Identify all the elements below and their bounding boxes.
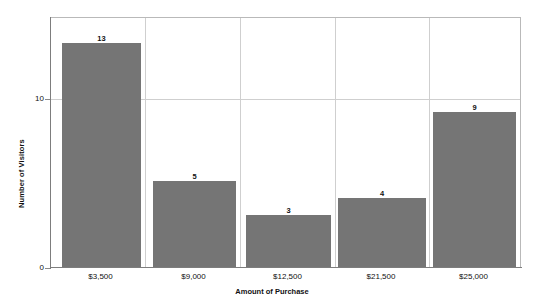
bar-1 — [62, 43, 141, 267]
y-tick-label-10: 10 — [26, 93, 44, 105]
x-tick-label-2: $9,000 — [152, 272, 235, 281]
bar-value-5: 9 — [433, 103, 516, 112]
x-axis-title: Amount of Purchase — [0, 287, 544, 296]
bar-value-4: 4 — [338, 189, 426, 198]
y-tick-label-0: 0 — [26, 262, 44, 274]
bar-2 — [153, 181, 236, 267]
plot-area: 13 5 3 4 9 — [50, 17, 521, 268]
bar-3 — [246, 215, 331, 267]
x-tick-label-3: $12,500 — [245, 272, 330, 281]
bar-value-3: 3 — [246, 206, 331, 215]
bar-chart: Number of Visitors 10 0 13 5 3 4 9 $3,50… — [0, 0, 544, 305]
x-tick-label-4: $21,500 — [337, 272, 425, 281]
bar-5 — [433, 112, 516, 267]
bar-value-2: 5 — [153, 172, 236, 181]
x-tick-label-5: $25,000 — [432, 272, 515, 281]
x-tick-label-1: $3,500 — [61, 272, 140, 281]
y-axis-ticks: 10 0 — [26, 0, 44, 305]
gridline-vertical-4 — [429, 18, 430, 267]
gridline-vertical-1 — [145, 18, 146, 267]
gridline-vertical-2 — [240, 18, 241, 267]
gridline-vertical-3 — [335, 18, 336, 267]
bar-4 — [338, 198, 426, 267]
bar-value-1: 13 — [62, 34, 141, 43]
